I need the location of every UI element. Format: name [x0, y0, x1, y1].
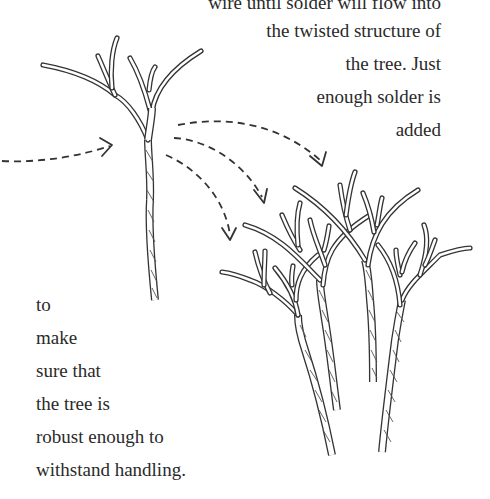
text-line: sure that — [36, 360, 101, 382]
text-line: the tree is — [36, 393, 110, 415]
text-line: robust enough to — [36, 426, 164, 448]
text-line: the tree. Just — [345, 53, 441, 75]
text-line: make — [36, 327, 77, 349]
text-line: withstand handling. — [36, 459, 186, 481]
wire-tree-1 — [222, 251, 332, 455]
wire-tree-4 — [378, 225, 470, 452]
text-line: added — [396, 119, 441, 141]
arrow-to-tree-3 — [166, 155, 236, 240]
incoming-arrow — [2, 138, 112, 161]
text-line: wire until solder will flow into — [208, 0, 441, 14]
text-line: enough solder is — [316, 86, 441, 108]
arrow-to-tree-2 — [174, 138, 267, 203]
twisted-wire-tree — [43, 38, 201, 300]
text-line: to — [36, 294, 51, 316]
text-line: the twisted structure of — [266, 20, 441, 42]
wire-tree-2 — [245, 203, 370, 410]
